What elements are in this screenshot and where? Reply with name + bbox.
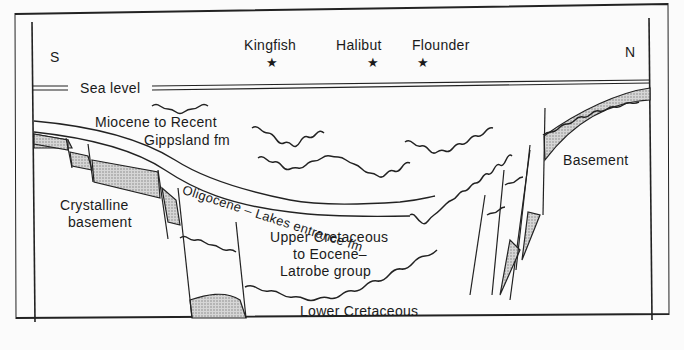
- well-flounder-label: Flounder: [412, 38, 470, 52]
- star-icon: ★: [367, 56, 379, 69]
- basement-label-right: Basement: [563, 153, 628, 167]
- well-kingfish-label: Kingfish: [244, 38, 296, 52]
- upper-cretaceous-label: Upper Cretaceous: [270, 230, 388, 244]
- miocene-label: Miocene to Recent: [95, 115, 217, 129]
- sea-level-label: Sea level: [80, 81, 140, 95]
- north-label: N: [625, 45, 635, 59]
- basement-label-left: basement: [68, 215, 132, 229]
- crystalline-label: Crystalline: [60, 198, 129, 212]
- gippsland-label: Gippsland fm: [144, 133, 230, 147]
- eocene-label: to Eocene–: [293, 247, 367, 261]
- left-basement-blocks: [34, 134, 246, 318]
- well-halibut-label: Halibut: [336, 38, 382, 52]
- star-icon: ★: [417, 56, 429, 69]
- left-boundary: [32, 22, 35, 322]
- south-label: S: [50, 50, 60, 64]
- star-icon: ★: [266, 56, 278, 69]
- lower-cretaceous-label: Lower Cretaceous: [300, 304, 418, 318]
- right-boundary: [649, 18, 652, 320]
- latrobe-label: Latrobe group: [280, 264, 371, 278]
- right-basement-wedge: [470, 88, 650, 300]
